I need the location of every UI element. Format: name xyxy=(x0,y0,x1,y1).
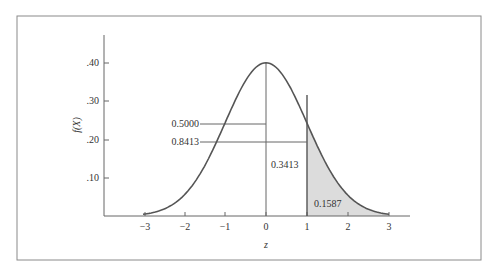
y-axis-label: f(X) xyxy=(71,117,83,133)
y-tick-label: .40 xyxy=(87,57,100,68)
y-ticks xyxy=(104,63,109,178)
y-tick-label: .20 xyxy=(87,134,100,145)
y-tick-label: .30 xyxy=(87,95,100,106)
annotation-0.8413: 0.8413 xyxy=(172,136,200,147)
x-tick-label: 0 xyxy=(264,221,269,232)
y-tick-labels: .10 .20 .30 .40 xyxy=(87,57,100,183)
annotation-0.5000: 0.5000 xyxy=(172,118,200,129)
x-tick-label: 1 xyxy=(305,221,310,232)
y-tick-label: .10 xyxy=(87,172,100,183)
normal-distribution-chart: .10 .20 .30 .40 f(X) −3 −2 −1 0 1 2 3 z … xyxy=(0,0,497,278)
x-tick-label: 3 xyxy=(387,221,392,232)
x-tick-label: −2 xyxy=(180,221,191,232)
annotation-0.1587: 0.1587 xyxy=(314,198,342,209)
x-tick-label: 2 xyxy=(346,221,351,232)
x-tick-label: −1 xyxy=(220,221,231,232)
x-axis-label: z xyxy=(263,239,268,250)
x-tick-label: −3 xyxy=(140,221,151,232)
annotation-0.3413: 0.3413 xyxy=(271,159,299,170)
x-tick-labels: −3 −2 −1 0 1 2 3 xyxy=(140,221,392,232)
